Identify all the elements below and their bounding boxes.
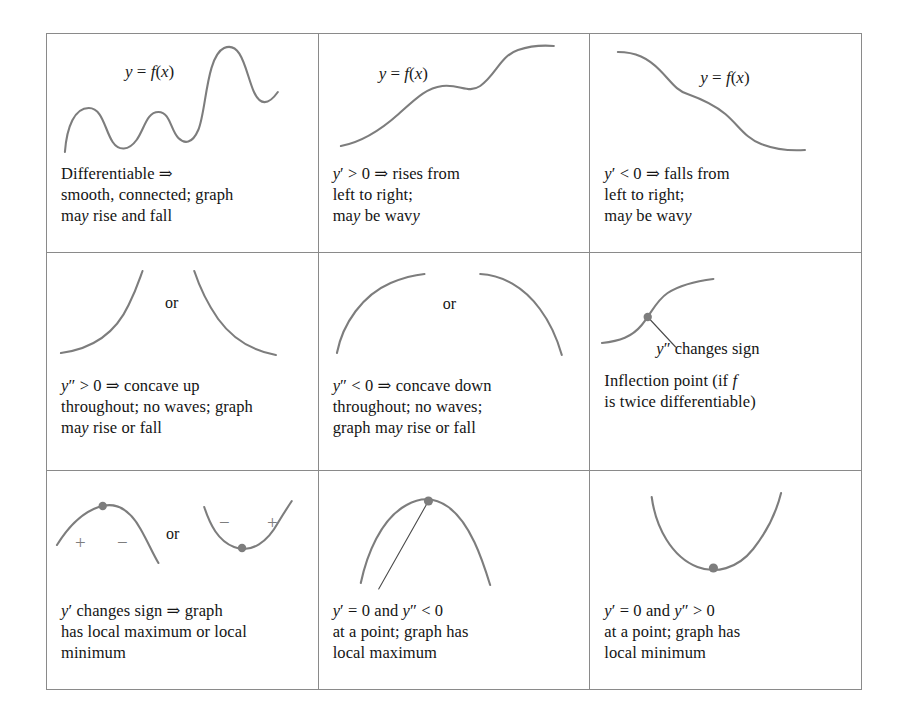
cell-content: y″ changes sign Inflection point (if f i… [590,253,861,471]
caption-line: Inflection point (if f [604,371,853,392]
function-label: y = f(x) [125,62,174,82]
figure-increasing-curve: y = f(x) [319,34,590,154]
cell-caption: Differentiable ⇒ smooth, connected; grap… [61,164,310,227]
caption-line: y′ < 0 ⇒ falls from [604,164,853,185]
cell-content: y′ = 0 and y″ > 0 at a point; graph has … [590,471,861,689]
caption-line: may rise and fall [61,206,310,227]
cell-content: + − or − + y′ changes sign ⇒ graph has l… [47,471,318,689]
caption-line: y′ changes sign ⇒ graph [61,601,310,622]
or-label: or [443,295,456,313]
page-root: y = f(x) Differentiable ⇒ smooth, connec… [0,0,899,726]
cell-content: y = f(x) y′ > 0 ⇒ rises from left to rig… [319,34,590,252]
caption-line: local minimum [604,643,853,664]
function-label: y = f(x) [379,64,428,84]
caption-line: throughout; no waves; graph [61,397,310,418]
figure-concave-up-arcs: or [47,253,318,373]
cell-caption: y′ > 0 ⇒ rises from left to right; may b… [333,164,582,227]
cell-content: or y″ > 0 ⇒ concave up throughout; no wa… [47,253,318,471]
caption-line: left to right; [604,185,853,206]
caption-line: y″ > 0 ⇒ concave up [61,376,310,397]
caption-line: smooth, connected; graph [61,185,310,206]
cell-content: y = f(x) y′ < 0 ⇒ falls from left to rig… [590,34,861,252]
caption-line: is twice differentiable) [604,392,853,413]
sign-plus-left: + [75,533,86,552]
function-label: y = f(x) [700,68,749,88]
cell-first-derivative-negative: y = f(x) y′ < 0 ⇒ falls from left to rig… [590,34,862,253]
sign-minus-left: − [117,533,128,552]
cell-content: y = f(x) Differentiable ⇒ smooth, connec… [47,34,318,252]
caption-line: y″ < 0 ⇒ concave down [333,376,582,397]
cell-content: or y″ < 0 ⇒ concave down throughout; no … [319,253,590,471]
caption-line: has local maximum or local [61,622,310,643]
table-body: y = f(x) Differentiable ⇒ smooth, connec… [47,34,862,690]
or-label: or [165,294,178,312]
cell-content: y′ = 0 and y″ < 0 at a point; graph has … [319,471,590,689]
cell-caption: y′ = 0 and y″ < 0 at a point; graph has … [333,601,582,664]
caption-line: at a point; graph has [333,622,582,643]
inflection-annotation: y″ changes sign [656,339,759,359]
table-row: + − or − + y′ changes sign ⇒ graph has l… [47,471,862,690]
caption-line: throughout; no waves; [333,397,582,418]
figure-inflection-curve: y″ changes sign [590,253,861,373]
cell-caption: y′ changes sign ⇒ graph has local maximu… [61,601,310,664]
cell-caption: y″ < 0 ⇒ concave down throughout; no wav… [333,376,582,439]
cell-local-maximum: y′ = 0 and y″ < 0 at a point; graph has … [318,471,590,690]
cell-local-minimum: y′ = 0 and y″ > 0 at a point; graph has … [590,471,862,690]
caption-line: may be wavy [333,206,582,227]
cell-first-derivative-positive: y = f(x) y′ > 0 ⇒ rises from left to rig… [318,34,590,253]
sign-plus-right: + [267,513,278,532]
cell-differentiable: y = f(x) Differentiable ⇒ smooth, connec… [47,34,319,253]
caption-line: may rise or fall [61,418,310,439]
figure-wavy-curve: y = f(x) [47,34,318,154]
caption-line: left to right; [333,185,582,206]
cell-caption: Inflection point (if f is twice differen… [604,371,853,413]
table-row: y = f(x) Differentiable ⇒ smooth, connec… [47,34,862,253]
figure-local-minimum [590,471,861,591]
caption-line: local maximum [333,643,582,664]
caption-line: graph may rise or fall [333,418,582,439]
cell-caption: y″ > 0 ⇒ concave up throughout; no waves… [61,376,310,439]
cell-second-derivative-positive: or y″ > 0 ⇒ concave up throughout; no wa… [47,252,319,471]
sign-minus-right: − [219,513,230,532]
figure-decreasing-curve: y = f(x) [590,34,861,154]
caption-line: Differentiable ⇒ [61,164,310,185]
caption-line: y′ = 0 and y″ < 0 [333,601,582,622]
cell-caption: y′ < 0 ⇒ falls from left to right; may b… [604,164,853,227]
caption-line: at a point; graph has [604,622,853,643]
or-label: or [166,525,179,543]
caption-line: minimum [61,643,310,664]
figure-local-maximum [319,471,590,591]
cell-inflection-point: y″ changes sign Inflection point (if f i… [590,252,862,471]
cell-first-derivative-changes-sign: + − or − + y′ changes sign ⇒ graph has l… [47,471,319,690]
caption-line: y′ > 0 ⇒ rises from [333,164,582,185]
figure-concave-down-arcs: or [319,253,590,373]
figure-sign-change-arcs: + − or − + [47,471,318,591]
caption-line: may be wavy [604,206,853,227]
table-row: or y″ > 0 ⇒ concave up throughout; no wa… [47,252,862,471]
derivative-behavior-table: y = f(x) Differentiable ⇒ smooth, connec… [46,33,862,690]
cell-caption: y′ = 0 and y″ > 0 at a point; graph has … [604,601,853,664]
caption-line: y′ = 0 and y″ > 0 [604,601,853,622]
cell-second-derivative-negative: or y″ < 0 ⇒ concave down throughout; no … [318,252,590,471]
